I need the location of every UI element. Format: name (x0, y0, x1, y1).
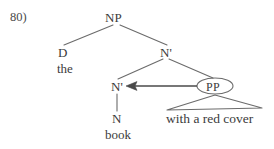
node-pp: PP (206, 81, 220, 93)
terminal-the: the (57, 62, 73, 75)
pp-to-nbar-arrow (126, 82, 197, 91)
node-np: NP (105, 11, 122, 24)
terminal-pp-phrase: with a red cover (166, 112, 253, 126)
node-d: D (58, 46, 68, 59)
branch-nbar-to-nbar (118, 59, 163, 79)
node-n: N (112, 112, 122, 125)
syntax-tree-diagram: 80) NP D N' N' N PP the book with a red … (0, 0, 274, 149)
terminal-book: book (105, 128, 131, 141)
branch-np-to-d (64, 25, 113, 45)
tree-lines-canvas (0, 0, 274, 149)
node-nbar-top: N' (160, 46, 172, 59)
node-nbar-inner: N' (111, 80, 123, 93)
branch-nbar-to-pp (169, 59, 213, 78)
pp-triangle (167, 95, 262, 110)
branch-np-to-nbar (120, 25, 167, 45)
